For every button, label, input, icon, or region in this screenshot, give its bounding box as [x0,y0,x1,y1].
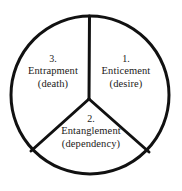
sector-label-enticement: 1. Enticement (desire) [92,53,160,91]
sector-1-title: Enticement [92,65,160,78]
divider-spoke-top-icon [89,16,90,99]
sector-2-note: (dependency) [31,138,151,151]
sector-1-index: 1. [92,53,160,65]
diagram-graphic [0,0,182,191]
sector-3-title: Entrapment [18,65,88,78]
sector-2-index: 2. [31,113,151,125]
sector-label-entrapment: 3. Entrapment (death) [18,53,88,91]
sector-3-index: 3. [18,53,88,65]
sector-label-entanglement: 2. Entanglement (dependency) [31,113,151,151]
sector-2-title: Entanglement [31,125,151,138]
sector-3-note: (death) [18,78,88,91]
three-stage-cycle-diagram: 1. Enticement (desire) 3. Entrapment (de… [0,0,182,191]
sector-1-note: (desire) [92,78,160,91]
